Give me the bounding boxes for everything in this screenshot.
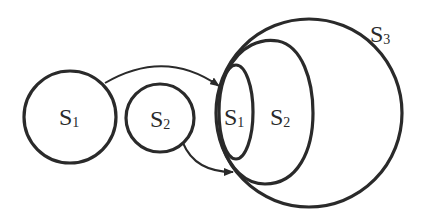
set-s1-circle: S1: [24, 71, 116, 163]
set-s2-letter: S: [150, 106, 163, 132]
svg-text:S1: S1: [59, 104, 79, 130]
set-s1-letter: S: [59, 104, 72, 130]
middle-s2-subscript: 2: [283, 115, 290, 130]
set-s2-subscript: 2: [163, 117, 170, 132]
svg-text:S2: S2: [270, 104, 290, 130]
set-inclusion-diagram: S1 S2 S1 S2 S3: [0, 0, 421, 219]
outer-s3-letter: S: [370, 21, 383, 47]
outer-s3-subscript: 3: [383, 32, 390, 47]
svg-text:S2: S2: [150, 106, 170, 132]
inner-s1-letter: S: [224, 104, 237, 130]
set-s1-subscript: 1: [72, 115, 79, 130]
svg-text:S1: S1: [224, 104, 244, 130]
middle-s2-letter: S: [270, 104, 283, 130]
svg-text:S3: S3: [370, 21, 390, 47]
inner-s1-subscript: 1: [237, 115, 244, 130]
nested-sets: S1 S2 S3: [216, 19, 402, 207]
set-s2-circle: S2: [126, 84, 194, 152]
